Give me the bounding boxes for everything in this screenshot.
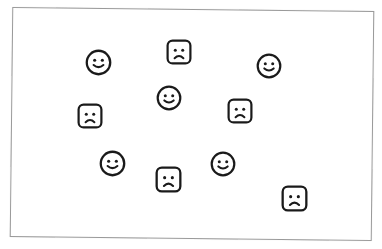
- sad-face-icon: [77, 103, 103, 129]
- smiley-face-icon: [156, 85, 182, 111]
- smiley-face-icon: [256, 53, 282, 79]
- smiley-face-icon: [99, 150, 126, 177]
- smiley-face-icon: [85, 49, 112, 76]
- sad-face-icon: [281, 185, 308, 212]
- sad-face-icon: [227, 98, 253, 124]
- sad-face-icon: [166, 39, 192, 65]
- smiley-face-icon: [210, 151, 236, 177]
- sad-face-icon: [155, 166, 182, 193]
